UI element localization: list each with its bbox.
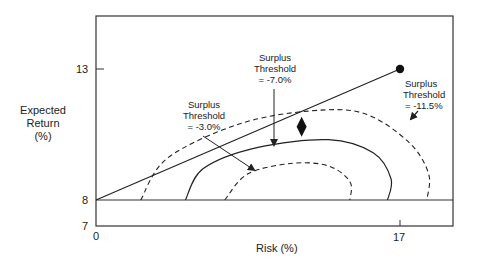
annotation-minus-3-0-arrow [203, 136, 254, 170]
annotation-minus-11-5-arrow [411, 111, 418, 119]
y-axis-title-line-3: (%) [34, 130, 51, 142]
risk-return-diagram: 13 8 7 0 17 Risk (%) Expected Return (%)… [0, 0, 478, 272]
y-axis-title-line-2: Return [26, 117, 59, 129]
annotation-minus-11-5-line-1: Surplus [405, 78, 437, 89]
y-tick-label-8: 8 [82, 194, 88, 206]
curve-threshold-minus-11-5 [141, 110, 430, 200]
annotation-minus-11-5-line-2: Threshold [403, 89, 445, 100]
optimal-point-diamond-marker [297, 117, 307, 137]
max-return-point-marker [396, 65, 404, 73]
y-tick-label-7: 7 [82, 220, 88, 232]
x-axis-title: Risk (%) [256, 242, 298, 254]
diagram-stage: 13 8 7 0 17 Risk (%) Expected Return (%)… [0, 0, 478, 272]
x-tick-label-17: 17 [393, 231, 405, 243]
y-tick-label-13: 13 [76, 63, 88, 75]
annotation-minus-3-0-line-2: Threshold [183, 110, 225, 121]
y-axis-title-line-1: Expected [20, 104, 66, 116]
annotation-minus-7-0-line-2: Threshold [254, 63, 296, 74]
annotation-minus-3-0-line-3: = -3.0% [187, 121, 221, 132]
annotation-minus-7-0-line-1: Surplus [259, 52, 291, 63]
annotation-minus-3-0-line-1: Surplus [188, 99, 220, 110]
annotation-minus-11-5-line-3: = -11.5% [405, 100, 443, 111]
allocation-line [96, 69, 400, 200]
curve-threshold-minus-3-0 [225, 163, 352, 200]
x-tick-label-0: 0 [93, 230, 99, 242]
annotation-minus-7-0-line-3: = -7.0% [258, 74, 292, 85]
